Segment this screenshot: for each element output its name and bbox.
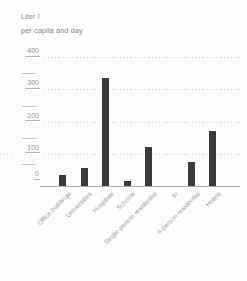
y-axis-minor-dash (22, 138, 36, 139)
y-axis-tick-label: 200 (26, 112, 40, 122)
bar-hotels (209, 131, 216, 186)
y-axis-tick-label: 100 (26, 144, 40, 154)
y-axis-minor-dash (22, 73, 36, 74)
x-axis-baseline (40, 186, 240, 187)
y-axis-tick-200: 200 (18, 112, 40, 122)
y-axis-tick-label: 400 (26, 47, 40, 57)
gridline-stub-left (0, 154, 13, 155)
y-axis-tick-label: 300 (26, 79, 40, 89)
x-axis-label-office-buildings: Office buildings (0, 190, 72, 269)
y-axis-tick-400: 400 (18, 47, 40, 57)
y-axis-tick-label: 0 (34, 170, 40, 180)
bar-6-person-residential (188, 162, 195, 186)
gridline-200 (44, 122, 240, 123)
water-consumption-bar-chart: Liter l per capita and day 4003002001000… (0, 0, 247, 281)
y-axis-tick-100: 100 (18, 144, 40, 154)
bar-single-person-residential (145, 147, 152, 186)
y-axis-minor-dash (22, 106, 36, 107)
gridline-400 (44, 57, 240, 58)
y-axis-minor-dash (22, 164, 36, 165)
bar-universities (81, 168, 88, 186)
bar-hospitals (102, 78, 109, 186)
plot-area: 4003002001000Office buildingsUniversitie… (0, 0, 247, 281)
gridline-300 (44, 89, 240, 90)
y-axis-tick-0: 0 (18, 170, 40, 180)
bar-office-buildings (59, 175, 66, 186)
y-axis-tick-300: 300 (18, 79, 40, 89)
bar-schools (124, 181, 131, 186)
